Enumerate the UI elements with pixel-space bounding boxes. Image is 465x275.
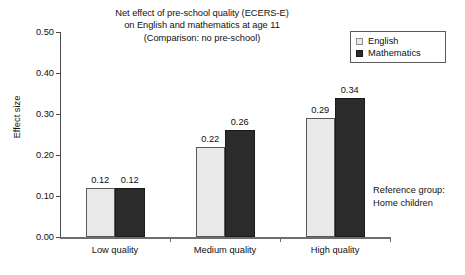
- bar-mathematics[interactable]: [115, 188, 145, 237]
- bar-english[interactable]: [306, 118, 336, 237]
- y-axis-tick: [56, 196, 60, 197]
- chart-legend: English Mathematics: [350, 31, 446, 63]
- reference-group-note-line-2: Home children: [373, 197, 445, 210]
- y-axis-tick-label: 0.40: [0, 68, 54, 78]
- x-axis-tick: [280, 238, 281, 242]
- bar-chart-figure: Net effect of pre-school quality (ECERS-…: [0, 0, 465, 275]
- y-axis-line: [60, 32, 61, 238]
- y-axis-tick: [56, 155, 60, 156]
- y-axis-tick-label: 0.10: [0, 191, 54, 201]
- plot-area: 0.120.120.220.260.290.34: [60, 32, 390, 237]
- reference-group-note-line-1: Reference group:: [373, 184, 445, 197]
- y-axis-tick: [56, 114, 60, 115]
- x-axis-tick: [170, 238, 171, 242]
- x-axis-category-label: High quality: [280, 245, 390, 256]
- legend-label-english: English: [368, 36, 399, 47]
- bar-value-label: 0.34: [331, 85, 369, 95]
- y-axis-tick: [56, 73, 60, 74]
- x-axis-end-tick: [390, 238, 391, 242]
- x-axis-line: [60, 237, 391, 239]
- bar-mathematics[interactable]: [225, 130, 255, 237]
- bar-value-label: 0.22: [192, 134, 230, 144]
- legend-item-english[interactable]: English: [356, 35, 441, 47]
- legend-item-mathematics[interactable]: Mathematics: [356, 47, 441, 59]
- legend-label-mathematics: Mathematics: [368, 48, 421, 59]
- y-axis-tick-label: 0.20: [0, 150, 54, 160]
- x-axis-category-labels: Low qualityMedium qualityHigh quality: [60, 245, 391, 261]
- y-axis-tick-label: 0.50: [0, 27, 54, 37]
- chart-title-line-2: on English and mathematics at age 11: [62, 19, 342, 31]
- bar-value-label: 0.26: [221, 117, 259, 127]
- bar-mathematics[interactable]: [335, 98, 365, 237]
- y-axis-tick: [56, 32, 60, 33]
- chart-title-line-1: Net effect of pre-school quality (ECERS-…: [62, 7, 342, 19]
- legend-swatch-mathematics-icon: [356, 50, 363, 57]
- bar-value-label: 0.12: [111, 175, 149, 185]
- x-axis-category-label: Low quality: [60, 245, 170, 256]
- bar-value-label: 0.29: [302, 105, 340, 115]
- x-axis-category-label: Medium quality: [170, 245, 280, 256]
- reference-group-note: Reference group: Home children: [373, 184, 445, 209]
- y-axis-tick-label: 0.00: [0, 232, 54, 242]
- legend-swatch-english-icon: [356, 38, 363, 45]
- y-axis-tick-labels: 0.000.100.200.300.400.50: [0, 32, 54, 238]
- y-axis-tick: [56, 237, 60, 238]
- y-axis-tick-label: 0.30: [0, 109, 54, 119]
- bar-english[interactable]: [86, 188, 116, 237]
- bar-english[interactable]: [196, 147, 226, 237]
